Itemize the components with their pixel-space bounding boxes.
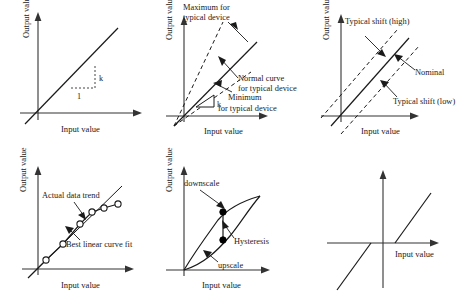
y-axis-arrow bbox=[35, 12, 42, 21]
nominal-label: Nominal bbox=[415, 68, 445, 77]
panel-hysteresis: downscale Hysteresis upscale Input value… bbox=[152, 150, 309, 304]
nominal-leader-arrow bbox=[394, 54, 403, 62]
x-axis-arrow bbox=[430, 240, 439, 247]
data-point bbox=[115, 201, 121, 207]
normal-curve-label-line1: Normal curve bbox=[238, 74, 285, 83]
y-axis-label: Output value bbox=[164, 0, 174, 40]
typical-shift-high-label: Typical shift (high) bbox=[345, 17, 410, 26]
y-axis-arrow bbox=[380, 170, 387, 179]
maximum-leader-arrow bbox=[230, 22, 238, 30]
slope-run-label: 1 bbox=[77, 92, 81, 101]
y-axis-label: Output value bbox=[321, 0, 331, 40]
panel-sensitivity-tolerance: k Maximum for typical device Normal curv… bbox=[152, 0, 309, 150]
maximum-leader bbox=[228, 22, 248, 42]
y-axis-label: Output value bbox=[164, 147, 174, 192]
best-linear-curve-fit-label: Best linear curve fit bbox=[66, 240, 133, 249]
y-axis-label: Output value bbox=[18, 147, 28, 192]
panel-offset-shift: Typical shift (high) Nominal Typical shi… bbox=[309, 0, 466, 150]
data-point bbox=[89, 209, 95, 215]
y-axis-arrow bbox=[181, 166, 188, 175]
x-axis-label: Input value bbox=[395, 249, 434, 259]
upscale-leader-arrow bbox=[203, 250, 212, 258]
downscale-label: downscale bbox=[184, 179, 220, 188]
typical-shift-low-label: Typical shift (low) bbox=[393, 97, 455, 106]
x-axis-arrow bbox=[261, 267, 270, 274]
normal-leader-arrow bbox=[218, 56, 226, 66]
y-axis-arrow bbox=[35, 166, 42, 175]
x-axis-label: Input value bbox=[204, 126, 243, 136]
data-point bbox=[43, 257, 49, 263]
slope-rise-label: k bbox=[99, 74, 104, 83]
negative-branch-line bbox=[337, 243, 371, 290]
typical-shift-high-curve bbox=[321, 30, 397, 118]
minimum-label-line1: Minimum bbox=[228, 93, 262, 102]
actual-data-trend-label: Actual data trend bbox=[42, 191, 100, 200]
minimum-label-line2: for typical device bbox=[218, 104, 277, 113]
upscale-point bbox=[220, 237, 226, 243]
x-axis-label: Input value bbox=[61, 280, 100, 290]
x-axis-arrow bbox=[125, 266, 134, 273]
panel-ideal-linear: k 1 Input value Output value bbox=[0, 0, 152, 150]
hysteresis-leader-arrow bbox=[222, 220, 229, 229]
nominal-curve bbox=[331, 38, 409, 126]
actual-trend-leader-arrow bbox=[78, 212, 86, 220]
y-axis-arrow bbox=[338, 14, 345, 23]
shift-high-leader-arrow bbox=[377, 49, 386, 57]
y-axis-label: Output value bbox=[21, 0, 31, 38]
maximum-label-line1: Maximum for bbox=[183, 3, 230, 12]
normal-curve-label-line2: for typical device bbox=[238, 84, 297, 93]
x-axis-label: Input value bbox=[61, 124, 100, 134]
x-axis-arrow bbox=[410, 113, 419, 120]
hysteresis-label: Hysteresis bbox=[234, 237, 269, 246]
panel-linearity-curve-fit: Actual data trend Best linear curve fit … bbox=[0, 150, 152, 304]
x-axis-arrow bbox=[133, 110, 142, 117]
data-point bbox=[77, 221, 83, 227]
positive-branch-line bbox=[395, 193, 431, 243]
x-axis-arrow bbox=[259, 113, 268, 120]
maximum-label-line2: typical device bbox=[183, 13, 230, 22]
x-axis-label: Input value bbox=[361, 126, 400, 136]
maximum-curve bbox=[174, 22, 223, 126]
data-point bbox=[101, 205, 107, 211]
typical-shift-low-curve bbox=[341, 46, 419, 134]
transfer-line bbox=[25, 28, 118, 124]
panel-dead-band: Input value bbox=[309, 150, 466, 304]
x-axis-label: Input value bbox=[202, 280, 241, 290]
upscale-label: upscale bbox=[218, 261, 243, 270]
sensor-characteristics-figure: k 1 Input value Output value k Maximum f… bbox=[0, 0, 466, 304]
downscale-point bbox=[220, 209, 226, 215]
